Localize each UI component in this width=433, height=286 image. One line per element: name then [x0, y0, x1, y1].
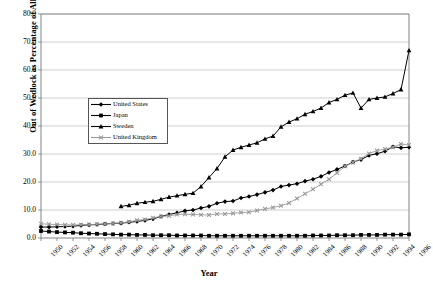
legend-marker-diamond-icon — [91, 104, 111, 105]
y-tick-label: 40.0 — [2, 121, 36, 130]
legend-marker-cross-icon — [91, 137, 111, 138]
x-tick-label: 1996 — [417, 243, 433, 259]
chart-legend: United StatesJapanSwedenUnited Kingdom — [88, 98, 168, 144]
x-axis-title: Year — [0, 268, 418, 278]
y-tick-label: 50.0 — [2, 93, 36, 102]
legend-label: Japan — [113, 111, 128, 118]
y-tick-label: 60.0 — [2, 65, 36, 74]
y-tick-label: 0.0 — [2, 233, 36, 242]
legend-item: Sweden — [89, 121, 167, 132]
y-tick-label: 70.0 — [2, 37, 36, 46]
y-tick-label: 10.0 — [2, 205, 36, 214]
y-tick-label: 20.0 — [2, 177, 36, 186]
y-tick-label: 80.0 — [2, 9, 36, 18]
legend-item: United States — [89, 99, 167, 110]
legend-item: Japan — [89, 110, 167, 121]
legend-item: United Kingdom — [89, 132, 167, 143]
legend-label: Sweden — [113, 122, 134, 129]
legend-label: United Kingdom — [113, 133, 157, 140]
legend-marker-triangle-icon — [91, 126, 111, 127]
legend-label: United States — [113, 100, 148, 107]
y-tick-label: 30.0 — [2, 149, 36, 158]
legend-marker-square-icon — [91, 115, 111, 116]
